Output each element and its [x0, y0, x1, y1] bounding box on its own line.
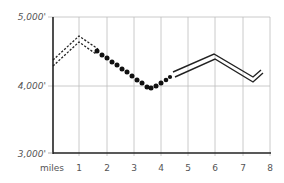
x-tick-3: 3	[131, 163, 137, 173]
elevation-chart: 5,000' 4,000' 3,000' miles 1 2 3 4 5 6 7…	[0, 0, 284, 183]
grid-horizontal	[48, 17, 270, 86]
y-tick-3000: 3,000'	[18, 149, 46, 159]
y-tick-4000: 4,000'	[18, 81, 46, 91]
x-tick-8: 8	[267, 163, 273, 173]
series-dots	[95, 49, 173, 91]
x-axis-unit-label: miles	[40, 163, 64, 173]
x-tick-6: 6	[212, 163, 218, 173]
y-tick-5000: 5,000'	[18, 12, 46, 22]
x-tick-5: 5	[185, 163, 191, 173]
x-tick-2: 2	[104, 163, 110, 173]
x-tick-7: 7	[240, 163, 246, 173]
grid-vertical	[79, 17, 270, 156]
x-tick-4: 4	[158, 163, 164, 173]
series-double-solid	[173, 54, 263, 82]
series-double-dashed	[53, 36, 98, 66]
x-tick-1: 1	[76, 163, 82, 173]
